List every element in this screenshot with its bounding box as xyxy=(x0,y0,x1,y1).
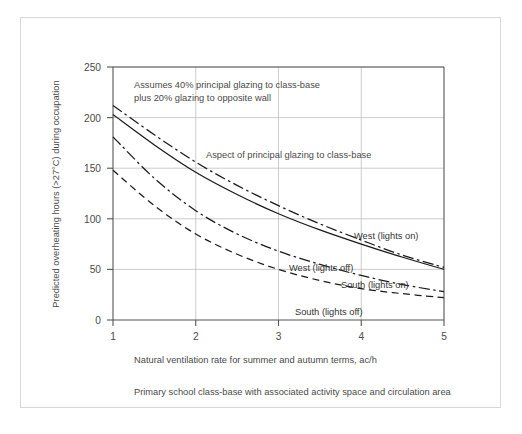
series-label-south-lights-off: South (lights off) xyxy=(295,307,363,317)
y-axis-title: Predicted overheating hours (>27°C) duri… xyxy=(51,80,61,307)
ytick-label-150: 150 xyxy=(84,163,101,174)
ytick-label-200: 200 xyxy=(84,113,101,124)
assumptions-note-line1: Assumes 40% principal glazing to class-b… xyxy=(134,80,320,90)
ytick-label-250: 250 xyxy=(84,62,101,73)
x-tick-marks xyxy=(113,320,444,326)
series-label-west-lights-off: West (lights off) xyxy=(289,263,353,273)
ytick-label-50: 50 xyxy=(90,264,102,275)
y-tick-marks xyxy=(107,67,113,320)
assumptions-note-line2: plus 20% glazing to opposite wall xyxy=(134,93,271,103)
xtick-label-5: 5 xyxy=(441,331,447,342)
chart-plot-area: 250 200 150 100 50 0 1 2 3 4 5 Assumes 4… xyxy=(21,18,502,409)
series-label-south-lights-on: South (lights on) xyxy=(341,280,409,290)
xtick-label-3: 3 xyxy=(276,331,282,342)
aspect-note: Aspect of principal glazing to class-bas… xyxy=(206,150,371,160)
series-label-west-lights-on: West (lights on) xyxy=(354,231,418,241)
vertical-gridlines xyxy=(196,67,362,320)
figure-panel: 250 200 150 100 50 0 1 2 3 4 5 Assumes 4… xyxy=(20,17,501,408)
figure-caption: Primary school class-base with associate… xyxy=(134,387,452,397)
ytick-label-100: 100 xyxy=(84,214,101,225)
chart-svg: 250 200 150 100 50 0 1 2 3 4 5 Assumes 4… xyxy=(21,18,502,409)
ytick-label-0: 0 xyxy=(95,315,101,326)
x-axis-title: Natural ventilation rate for summer and … xyxy=(134,355,377,365)
xtick-label-1: 1 xyxy=(110,331,116,342)
xtick-label-4: 4 xyxy=(358,331,364,342)
xtick-label-2: 2 xyxy=(193,331,199,342)
